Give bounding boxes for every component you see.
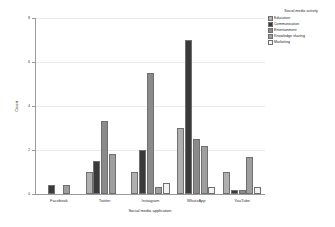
bar-group xyxy=(173,18,219,194)
bar[interactable] xyxy=(93,161,100,194)
bar-group xyxy=(219,18,265,194)
y-axis-tick: 2 xyxy=(32,150,35,151)
y-axis-title: Count xyxy=(14,18,19,195)
plot-area: 02468 xyxy=(35,18,265,195)
legend-swatch-marketing xyxy=(268,40,273,45)
bar[interactable] xyxy=(254,187,261,194)
legend-title: Social media activity xyxy=(268,9,334,14)
legend-label-knowledge-sharing: Knowledge sharing xyxy=(274,34,305,39)
y-axis-tick: 8 xyxy=(32,18,35,19)
legend-swatch-entertainment xyxy=(268,28,273,33)
bar-group xyxy=(82,18,128,194)
y-axis-tick: 6 xyxy=(32,62,35,63)
x-axis-title: Social media application xyxy=(35,208,265,213)
bar-group xyxy=(128,18,174,194)
bar[interactable] xyxy=(109,154,116,194)
y-axis-tick-label: 2 xyxy=(28,148,30,152)
bar[interactable] xyxy=(208,187,215,194)
legend-label-marketing: Marketing xyxy=(274,40,290,45)
bar[interactable] xyxy=(177,128,184,194)
bar[interactable] xyxy=(246,157,253,194)
bar[interactable] xyxy=(131,172,138,194)
bar[interactable] xyxy=(231,190,238,194)
y-axis-tick-label: 0 xyxy=(28,192,30,196)
bar[interactable] xyxy=(223,172,230,194)
x-axis-label: YouTube xyxy=(234,198,250,203)
bar[interactable] xyxy=(101,121,108,194)
x-axis-label: Twitter xyxy=(99,198,111,203)
bar[interactable] xyxy=(63,185,70,194)
legend-item-marketing[interactable]: Marketing xyxy=(268,39,334,45)
legend-items: Education Communication Entertainment Kn… xyxy=(268,15,334,45)
legend-swatch-knowledge-sharing xyxy=(268,34,273,39)
legend-swatch-communication xyxy=(268,22,273,27)
y-axis-tick-label: 8 xyxy=(28,16,30,20)
bar[interactable] xyxy=(86,172,93,194)
bar-group xyxy=(36,18,82,194)
y-axis-tick-label: 4 xyxy=(28,104,30,108)
legend-label-entertainment: Entertainment xyxy=(274,28,297,33)
legend-swatch-education xyxy=(268,16,273,21)
bars-layer xyxy=(36,18,265,194)
bar[interactable] xyxy=(147,73,154,194)
y-axis-tick: 4 xyxy=(32,106,35,107)
bar[interactable] xyxy=(48,185,55,194)
bar[interactable] xyxy=(239,190,246,194)
x-axis-line xyxy=(35,194,265,195)
x-axis-label: Facebook xyxy=(50,198,68,203)
bar[interactable] xyxy=(139,150,146,194)
x-axis-label: WhatsApp xyxy=(187,198,205,203)
x-axis-label: Instagram xyxy=(142,198,160,203)
bar[interactable] xyxy=(193,139,200,194)
chart-legend: Social media activity Education Communic… xyxy=(268,9,334,45)
y-axis-tick-label: 6 xyxy=(28,60,30,64)
bar[interactable] xyxy=(163,183,170,194)
y-axis-tick: 0 xyxy=(32,194,35,195)
bar[interactable] xyxy=(185,40,192,194)
bar[interactable] xyxy=(201,146,208,194)
bar[interactable] xyxy=(155,187,162,194)
bar-chart: Social media activity Education Communic… xyxy=(0,0,335,227)
legend-label-education: Education xyxy=(274,16,290,21)
legend-label-communication: Communication xyxy=(274,22,299,27)
